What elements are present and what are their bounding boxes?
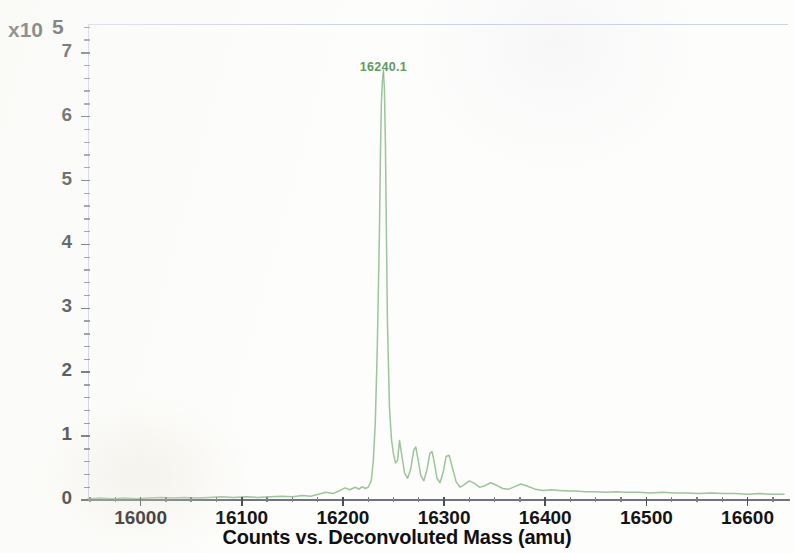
y-tick-major <box>81 180 90 182</box>
mass-spectrum-figure: x105 01234567 16000161001620016300164001… <box>0 0 794 553</box>
y-tick-minor <box>84 78 90 79</box>
y-tick-minor <box>84 333 90 334</box>
y-axis-exponent-label: x105 <box>8 18 64 42</box>
y-tick-minor <box>84 39 90 40</box>
x-tick-major <box>140 497 142 506</box>
y-tick-major <box>81 371 90 373</box>
x-tick-minor <box>317 497 318 502</box>
y-tick-minor <box>84 167 90 168</box>
y-tick-minor <box>84 231 90 232</box>
y-tick-minor <box>84 103 90 104</box>
y-tick-minor <box>84 397 90 398</box>
x-tick-minor <box>772 497 773 502</box>
x-axis-line <box>88 499 790 501</box>
y-tick-minor <box>84 269 90 270</box>
y-tick-label: 1 <box>32 423 72 445</box>
y-tick-label: 6 <box>32 104 72 126</box>
x-tick-minor <box>115 497 116 502</box>
x-axis-title: Counts vs. Deconvoluted Mass (amu) <box>0 526 794 549</box>
x-tick-minor <box>519 497 520 502</box>
y-tick-minor <box>84 90 90 91</box>
y-tick-minor <box>84 448 90 449</box>
x-tick-minor <box>393 497 394 502</box>
y-tick-minor <box>84 346 90 347</box>
x-tick-minor <box>216 497 217 502</box>
y-axis-exponent-prefix: x10 <box>8 18 43 41</box>
y-tick-minor <box>84 205 90 206</box>
x-tick-major <box>544 497 546 506</box>
y-tick-label: 3 <box>32 295 72 317</box>
y-tick-label: 4 <box>32 231 72 253</box>
x-tick-minor <box>494 497 495 502</box>
y-tick-minor <box>84 257 90 258</box>
y-tick-label: 0 <box>32 487 72 509</box>
y-tick-major <box>81 308 90 310</box>
x-tick-minor <box>89 497 90 502</box>
peak-label-16240: 16240.1 <box>313 60 453 74</box>
y-tick-label: 7 <box>32 40 72 62</box>
y-tick-major <box>81 52 90 54</box>
y-tick-label: 2 <box>32 359 72 381</box>
y-tick-minor <box>84 461 90 462</box>
y-tick-minor <box>84 487 90 488</box>
y-tick-minor <box>84 218 90 219</box>
y-tick-minor <box>84 142 90 143</box>
x-tick-minor <box>469 497 470 502</box>
x-tick-minor <box>368 497 369 502</box>
y-tick-minor <box>84 282 90 283</box>
y-tick-label: 5 <box>32 168 72 190</box>
y-tick-minor <box>84 410 90 411</box>
y-tick-minor <box>84 154 90 155</box>
spectrum-trace-line <box>88 72 784 499</box>
y-tick-major <box>81 435 90 437</box>
y-tick-minor <box>84 295 90 296</box>
x-tick-minor <box>165 497 166 502</box>
x-tick-major <box>747 497 749 506</box>
x-tick-minor <box>722 497 723 502</box>
x-tick-major <box>342 497 344 506</box>
y-tick-minor <box>84 27 90 28</box>
y-tick-minor <box>84 320 90 321</box>
x-tick-minor <box>190 497 191 502</box>
x-tick-minor <box>418 497 419 502</box>
x-tick-major <box>646 497 648 506</box>
x-tick-minor <box>570 497 571 502</box>
y-tick-minor <box>84 423 90 424</box>
spectrum-trace <box>0 0 794 553</box>
x-tick-minor <box>595 497 596 502</box>
y-axis-exponent-value: 5 <box>52 15 64 38</box>
x-tick-minor <box>266 497 267 502</box>
x-tick-minor <box>292 497 293 502</box>
y-tick-minor <box>84 474 90 475</box>
x-tick-minor <box>696 497 697 502</box>
y-tick-minor <box>84 384 90 385</box>
y-tick-minor <box>84 129 90 130</box>
y-tick-minor <box>84 359 90 360</box>
x-tick-major <box>443 497 445 506</box>
y-tick-major <box>81 244 90 246</box>
x-tick-minor <box>671 497 672 502</box>
x-tick-minor <box>620 497 621 502</box>
y-tick-minor <box>84 65 90 66</box>
y-tick-minor <box>84 193 90 194</box>
x-tick-major <box>241 497 243 506</box>
y-tick-major <box>81 116 90 118</box>
